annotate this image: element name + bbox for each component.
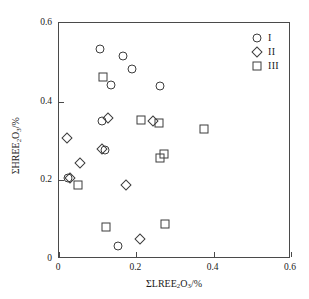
- legend-item-i: I: [251, 32, 279, 43]
- data-point-iii-5: [156, 153, 165, 162]
- data-point-iii-8: [102, 222, 111, 231]
- y-tick-label: 0.2: [24, 174, 52, 184]
- legend-item-iii: III: [251, 60, 279, 71]
- x-tick-mark: [214, 252, 215, 257]
- data-point-iii-2: [154, 118, 163, 127]
- data-point-ii-6: [120, 179, 131, 190]
- scatter-chart-figure: IIIIII 00.20.40.6 00.20.40.6 ΣLREE2O3/% …: [0, 0, 309, 299]
- data-point-iii-3: [200, 125, 209, 134]
- y-tick-mark: [59, 180, 64, 181]
- data-point-iii-0: [99, 73, 108, 82]
- x-tick-label: 0: [56, 262, 61, 272]
- data-point-iii-7: [161, 219, 170, 228]
- x-tick-mark: [136, 252, 137, 257]
- plot-area: IIIIII: [58, 22, 290, 258]
- data-point-i-0: [95, 44, 104, 53]
- y-tick-label: 0.4: [24, 96, 52, 106]
- y-tick-mark: [59, 102, 64, 103]
- data-point-ii-1: [61, 132, 72, 143]
- x-tick-label: 0.2: [129, 262, 141, 272]
- x-tick-label: 0.6: [284, 262, 296, 272]
- x-tick-mark: [59, 252, 60, 257]
- y-axis-label: ΣHREE2O3/%: [10, 86, 21, 206]
- data-point-i-2: [127, 65, 136, 74]
- data-point-i-8: [113, 242, 122, 251]
- y-tick-label: 0: [24, 253, 52, 263]
- legend-label: III: [268, 60, 279, 71]
- data-point-iii-6: [74, 181, 83, 190]
- legend: IIIIII: [249, 31, 281, 72]
- data-point-i-3: [107, 81, 116, 90]
- square-marker-icon: [251, 60, 262, 71]
- x-axis-label: ΣLREE2O3/%: [58, 278, 290, 289]
- data-point-ii-7: [135, 233, 146, 244]
- legend-item-ii: II: [251, 46, 279, 57]
- data-point-i-1: [118, 51, 127, 60]
- data-point-i-4: [155, 81, 164, 90]
- legend-label: I: [268, 32, 272, 43]
- x-tick-label: 0.4: [207, 262, 219, 272]
- data-point-iii-1: [136, 116, 145, 125]
- circle-marker-icon: [251, 32, 262, 43]
- x-tick-mark: [291, 252, 292, 257]
- data-point-ii-4: [75, 157, 86, 168]
- legend-label: II: [268, 46, 275, 57]
- diamond-marker-icon: [251, 46, 262, 57]
- y-tick-label: 0.6: [24, 17, 52, 27]
